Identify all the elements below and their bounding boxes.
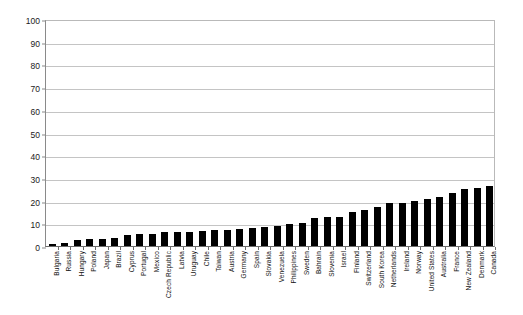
x-axis-category-label: Netherlands — [391, 251, 398, 287]
x-axis-tick — [320, 247, 321, 250]
x-axis-category-label: Philippines — [291, 251, 298, 284]
bar — [461, 189, 468, 246]
x-axis-tick — [470, 247, 471, 250]
bar — [324, 217, 331, 247]
x-axis-tick — [245, 247, 246, 250]
x-axis-tick — [70, 247, 71, 250]
plot-area: 0102030405060708090100 — [45, 20, 495, 247]
x-axis-category-label: Bahrain — [316, 251, 323, 274]
bar — [74, 240, 81, 246]
x-axis-labels: BulgariaRussiaHungaryPolandJapanBrazilCy… — [45, 251, 495, 313]
x-axis-tick — [420, 247, 421, 250]
x-axis-tick — [183, 247, 184, 250]
x-axis-category-label: Israel — [341, 251, 348, 268]
x-axis-category-label: Mexico — [154, 251, 161, 272]
bar — [411, 201, 418, 246]
bar — [211, 230, 218, 246]
y-axis-tick-label: 70 — [31, 85, 40, 94]
x-axis-category-label: Bulgaria — [54, 251, 61, 276]
bar — [486, 186, 493, 246]
x-axis-ticks — [45, 247, 495, 250]
x-axis-category-label: Switzerland — [366, 251, 373, 286]
x-axis-category-label: Japan — [104, 251, 111, 269]
bar — [186, 232, 193, 246]
bar — [111, 238, 118, 246]
y-axis-tick-label: 40 — [31, 153, 40, 162]
bar — [61, 243, 68, 246]
x-axis-category-label: Cyprus — [129, 251, 136, 272]
x-axis-tick — [108, 247, 109, 250]
x-axis-category-label: Slovenia — [329, 251, 336, 277]
x-axis-category-label: Austria — [229, 251, 236, 272]
x-axis-category-label: Brazil — [116, 251, 123, 268]
x-axis-category-label: Spain — [254, 251, 261, 268]
x-axis-tick — [395, 247, 396, 250]
x-axis-tick — [383, 247, 384, 250]
bar — [386, 203, 393, 246]
x-axis-category-label: France — [454, 251, 461, 272]
x-axis-tick — [208, 247, 209, 250]
y-axis-tick-label: 50 — [31, 130, 40, 139]
x-axis-category-label: Canada — [491, 251, 498, 274]
x-axis-tick — [483, 247, 484, 250]
x-axis-category-label: Latvia — [179, 251, 186, 269]
bar — [399, 203, 406, 246]
x-axis-category-label: Portugal — [141, 251, 148, 276]
bar — [449, 193, 456, 246]
y-axis-tick-label: 90 — [31, 39, 40, 48]
x-axis-category-label: Ireland — [404, 251, 411, 272]
bar — [124, 235, 131, 246]
x-axis-tick — [308, 247, 309, 250]
x-axis-tick — [133, 247, 134, 250]
x-axis-category-label: Hungary — [79, 251, 86, 276]
x-axis-tick — [220, 247, 221, 250]
bar — [236, 229, 243, 246]
bar — [149, 234, 156, 246]
x-axis-tick — [295, 247, 296, 250]
x-axis-tick — [433, 247, 434, 250]
x-axis-category-label: Chile — [204, 251, 211, 266]
bar — [274, 226, 281, 246]
y-axis-tick-label: 60 — [31, 108, 40, 117]
bar — [336, 217, 343, 247]
bar — [199, 231, 206, 246]
x-axis-tick — [283, 247, 284, 250]
x-axis-tick — [333, 247, 334, 250]
x-axis-category-label: Finland — [354, 251, 361, 273]
x-axis-category-label: Denmark — [479, 251, 486, 278]
bar-chart: 0102030405060708090100 BulgariaRussiaHun… — [0, 0, 523, 315]
bar — [424, 199, 431, 246]
x-axis-category-label: Norway — [416, 251, 423, 274]
x-axis-tick — [495, 247, 496, 250]
y-axis-tick-label: 0 — [35, 244, 40, 253]
x-axis-category-label: Slovakia — [266, 251, 273, 276]
x-axis-tick — [408, 247, 409, 250]
x-axis-category-label: Sweden — [304, 251, 311, 275]
x-axis-category-label: Poland — [91, 251, 98, 272]
y-axis-tick-label: 30 — [31, 176, 40, 185]
bar — [136, 234, 143, 246]
bar — [299, 223, 306, 246]
x-axis-category-label: Uruguay — [191, 251, 198, 276]
bar — [174, 232, 181, 246]
x-axis-tick — [120, 247, 121, 250]
x-axis-category-label: Taiwan — [216, 251, 223, 272]
x-axis-category-label: United States — [429, 251, 436, 291]
bar — [249, 228, 256, 246]
x-axis-tick — [95, 247, 96, 250]
bar — [99, 239, 106, 246]
bar — [161, 232, 168, 246]
bar — [286, 224, 293, 246]
y-axis-tick-label: 20 — [31, 198, 40, 207]
bar — [311, 218, 318, 246]
y-axis-tick-label: 100 — [26, 17, 40, 26]
bar — [224, 230, 231, 246]
x-axis-tick — [270, 247, 271, 250]
x-axis-tick — [170, 247, 171, 250]
x-axis-tick — [458, 247, 459, 250]
bar — [86, 239, 93, 246]
x-axis-category-label: Germany — [241, 251, 248, 278]
bar — [474, 188, 481, 246]
x-axis-category-label: New Zealand — [466, 251, 473, 290]
y-axis-tick-label: 80 — [31, 62, 40, 71]
